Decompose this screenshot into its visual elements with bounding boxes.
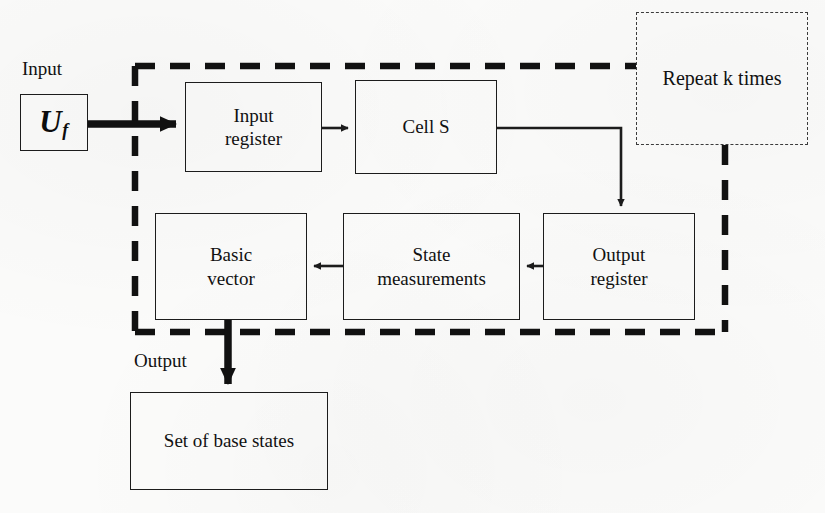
- node-output-register[interactable]: Outputregister: [543, 213, 695, 320]
- node-input-register[interactable]: Inputregister: [185, 82, 322, 172]
- node-state-measurements[interactable]: Statemeasurements: [343, 213, 520, 320]
- node-basic-vector-line1: Basic: [210, 244, 252, 265]
- node-input-register-label: Inputregister: [219, 104, 288, 150]
- uf-symbol: Uf: [39, 104, 68, 141]
- output-label: Output: [134, 350, 187, 372]
- uf-box[interactable]: Uf: [20, 94, 88, 151]
- node-output-register-line2: register: [591, 268, 648, 289]
- node-output-register-label: Outputregister: [585, 243, 654, 289]
- node-state-measurements-line2: measurements: [377, 268, 486, 289]
- node-set-of-base-states-label: Set of base states: [158, 429, 300, 452]
- node-output-register-line1: Output: [593, 244, 646, 265]
- node-cell-s-label: Cell S: [397, 115, 456, 138]
- repeat-k-times-annotation: Repeat k times: [636, 12, 808, 145]
- repeat-k-times-label: Repeat k times: [663, 67, 782, 90]
- node-state-measurements-label: Statemeasurements: [371, 243, 492, 289]
- node-input-register-line2: register: [225, 128, 282, 149]
- input-label: Input: [22, 58, 62, 80]
- node-input-register-line1: Input: [233, 105, 273, 126]
- uf-symbol-subscript: f: [62, 120, 68, 140]
- node-basic-vector[interactable]: Basicvector: [155, 213, 307, 320]
- edge-cell-s-to-output-register: [497, 128, 621, 206]
- node-cell-s[interactable]: Cell S: [355, 80, 497, 174]
- node-set-of-base-states[interactable]: Set of base states: [130, 392, 328, 490]
- uf-symbol-base: U: [39, 104, 62, 139]
- node-state-measurements-line1: State: [413, 244, 451, 265]
- node-basic-vector-label: Basicvector: [201, 243, 260, 289]
- diagram-canvas: Input Output Uf Repeat k times Inputregi…: [0, 0, 825, 513]
- node-basic-vector-line2: vector: [207, 268, 254, 289]
